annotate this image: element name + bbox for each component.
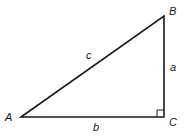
side-label-b: b <box>93 121 99 133</box>
vertex-label-c: C <box>169 116 177 128</box>
vertex-label-a: A <box>4 111 12 123</box>
side-label-a: a <box>170 61 176 73</box>
vertex-label-b: B <box>169 5 176 17</box>
triangle-outline <box>21 16 164 117</box>
side-label-c: c <box>86 49 92 61</box>
right-triangle-diagram: A B C c a b <box>0 0 191 138</box>
right-angle-marker <box>157 110 164 117</box>
